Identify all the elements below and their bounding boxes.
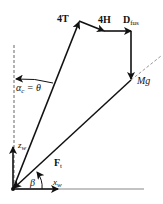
alpha-sub: c	[21, 87, 24, 95]
origin-point	[11, 187, 15, 191]
thrust-label: 4T	[57, 14, 69, 24]
beta-label: β	[30, 178, 35, 188]
x-axis-sub: w	[57, 181, 62, 189]
thrust-vector	[13, 22, 79, 189]
weight-label: Mg	[137, 76, 150, 86]
resultant-label: Ft	[54, 158, 62, 170]
z-axis-label: zw	[18, 141, 26, 152]
drag-label: Dfus	[123, 15, 139, 27]
alpha-equals-theta: = θ	[27, 82, 41, 93]
alpha-label: αc = θ	[16, 83, 41, 95]
weight-label-text: Mg	[137, 75, 150, 86]
z-axis-sub: w	[22, 144, 27, 152]
x-axis-label: xw	[53, 178, 62, 189]
resultant-label-sub: t	[60, 162, 62, 170]
h-force-label: 4H	[98, 15, 111, 25]
drag-label-sub: fus	[130, 19, 139, 27]
beta-angle-arc	[37, 172, 42, 189]
force-diagram	[0, 0, 163, 204]
resultant-vector	[14, 80, 131, 188]
